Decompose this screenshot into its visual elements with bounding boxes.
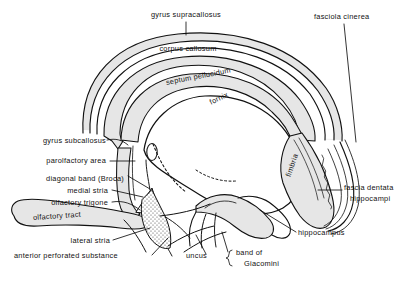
leader-band-giacomini xyxy=(222,232,228,252)
label-band-of-giacomini-line1: band of xyxy=(236,248,262,257)
label-fascia-dentata-line2: hippocampi xyxy=(350,194,390,203)
label-fascia-dentata-line1: fascia dentata xyxy=(344,183,394,192)
label-medial-stria: medial stria xyxy=(6,186,108,195)
label-anterior-perforated-substance: anterior perforated substance xyxy=(14,251,118,260)
label-lateral-stria: lateral stria xyxy=(10,236,110,245)
label-band-of-giacomini-line2: Giacomini xyxy=(244,259,279,268)
label-fasciola-cinerea: fasciola cinerea xyxy=(314,12,369,21)
label-parolfactory-area: parolfactory area xyxy=(6,156,106,165)
label-uncus: uncus xyxy=(186,251,207,260)
label-olfactory-trigone: olfactory trigone xyxy=(2,198,108,207)
anatomy-figure: gyrus supracallosus fasciola cinerea cor… xyxy=(0,0,403,281)
label-gyrus-supracallosus: gyrus supracallosus xyxy=(132,10,240,19)
label-hippocampus: hippocampus xyxy=(298,228,345,237)
bracket-band-giacomini xyxy=(226,250,232,266)
label-corpus-callosum: corpus callosum xyxy=(140,44,236,53)
fimbria-band xyxy=(281,133,334,228)
anterior-commissure xyxy=(147,144,157,161)
label-gyrus-subcallosus: gyrus subcallosus xyxy=(6,136,106,145)
leader-diagonal-band xyxy=(128,176,150,189)
leader-fasciola-cinerea xyxy=(344,24,356,142)
label-diagonal-band-broca: diagonal band (Broca) xyxy=(0,174,124,183)
leader-lateral-stria xyxy=(113,228,150,240)
